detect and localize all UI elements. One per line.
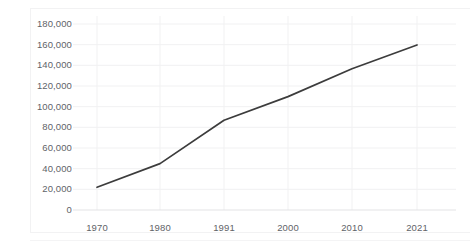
y-tick-label: 160,000 [2, 40, 72, 50]
y-tick-label: 40,000 [2, 164, 72, 174]
y-tick-label: 0 [2, 205, 72, 215]
y-tick-label: 20,000 [2, 184, 72, 194]
data-series-line [97, 45, 417, 187]
y-tick-label: 100,000 [2, 102, 72, 112]
x-tick-label: 1970 [86, 222, 108, 234]
x-tick-label: 2000 [277, 222, 299, 234]
x-tick-label: 2010 [341, 222, 363, 234]
plot-area [73, 16, 456, 218]
x-axis-labels: 1970 1980 1991 2000 2010 2021 [0, 222, 472, 238]
y-tick-label: 60,000 [2, 143, 72, 153]
x-tick-label: 1980 [149, 222, 171, 234]
x-tick-label: 1991 [213, 222, 235, 234]
grid-lines-horizontal [73, 24, 456, 189]
chart-screenshot: 180,000 160,000 140,000 120,000 100,000 … [0, 0, 472, 249]
y-tick-label: 120,000 [2, 81, 72, 91]
y-tick-label: 80,000 [2, 122, 72, 132]
clipped-chart-title [100, 0, 220, 5]
y-tick-label: 140,000 [2, 60, 72, 70]
line-chart-svg [73, 16, 456, 218]
chart-bottom-edge [30, 240, 470, 241]
y-tick-label: 180,000 [2, 19, 72, 29]
y-axis-labels: 180,000 160,000 140,000 120,000 100,000 … [0, 0, 72, 249]
x-tick-label: 2021 [406, 222, 428, 234]
